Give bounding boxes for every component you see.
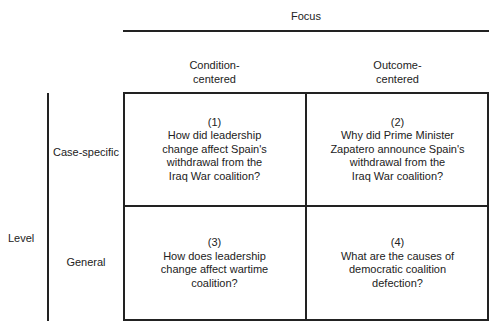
cell-number: (3) — [208, 236, 221, 250]
cell-text-line: democratic coalition — [349, 263, 446, 277]
column-header-line: Outcome- — [306, 58, 489, 72]
level-axis-line — [47, 93, 49, 321]
column-header-line: Condition- — [123, 58, 306, 72]
cell-text-line: change affect wartime — [161, 263, 268, 277]
cell-outcome-case-specific: (2) Why did Prime Minister Zapatero anno… — [307, 94, 488, 205]
cell-text-line: Iraq War coalition? — [169, 170, 260, 184]
cell-text-line: Why did Prime Minister — [341, 129, 454, 143]
cell-number: (2) — [391, 116, 404, 130]
cell-text-line: defection? — [372, 277, 423, 291]
focus-axis-title: Focus — [123, 10, 489, 22]
cell-text-line: How did leadership — [168, 129, 262, 143]
cell-number: (4) — [391, 236, 404, 250]
cell-text-line: change affect Spain's — [162, 143, 267, 157]
focus-axis-line — [123, 30, 489, 32]
cell-text-line: Iraq War coalition? — [352, 170, 443, 184]
level-axis-title: Level — [8, 232, 34, 244]
cell-condition-general: (3) How does leadership change affect wa… — [124, 207, 305, 319]
cell-text-line: withdrawal from the — [167, 156, 262, 170]
cell-text-line: withdrawal from the — [350, 156, 445, 170]
row-header-case-specific: Case-specific — [50, 146, 122, 158]
column-header-line: centered — [306, 72, 489, 86]
cell-number: (1) — [208, 116, 221, 130]
cell-text-line: How does leadership — [163, 250, 266, 264]
column-header-outcome-centered: Outcome- centered — [306, 58, 489, 86]
cell-text-line: What are the causes of — [341, 250, 454, 264]
cell-text-line: coalition? — [191, 277, 237, 291]
column-header-line: centered — [123, 72, 306, 86]
column-header-condition-centered: Condition- centered — [123, 58, 306, 86]
row-header-general: General — [50, 256, 122, 268]
cell-outcome-general: (4) What are the causes of democratic co… — [307, 207, 488, 319]
cell-condition-case-specific: (1) How did leadership change affect Spa… — [124, 94, 305, 205]
cell-text-line: Zapatero announce Spain's — [330, 143, 464, 157]
